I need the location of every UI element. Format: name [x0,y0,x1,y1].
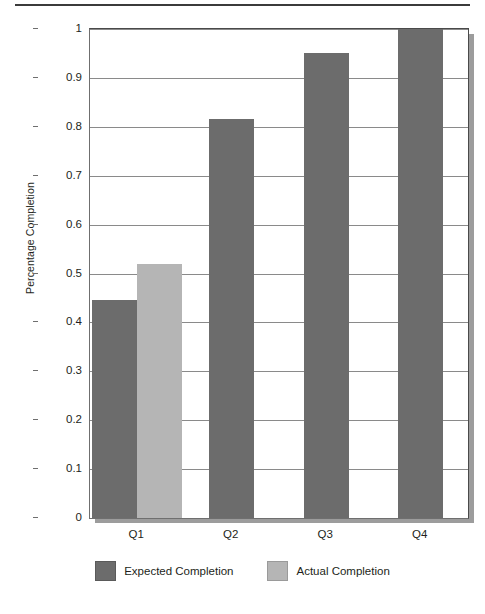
y-tick-label: 0.1 [42,462,82,474]
legend-item-actual: Actual Completion [267,561,389,581]
y-tick-mark [33,77,38,78]
bar-q4-expected [398,29,443,518]
y-tick-mark [33,517,38,518]
chart-legend: Expected CompletionActual Completion [0,561,485,581]
y-tick-label: 0.4 [42,315,82,327]
x-tick-label-q4: Q4 [412,528,427,540]
bar-q1-actual [137,264,182,518]
legend-swatch [95,561,116,581]
legend-item-expected: Expected Completion [95,561,233,581]
y-tick-mark [33,273,38,274]
legend-swatch [267,561,288,581]
y-tick-label: 0.2 [42,413,82,425]
x-tick-label-q2: Q2 [223,528,238,540]
y-tick-label: 0.3 [42,364,82,376]
y-tick-label: 0.5 [42,267,82,279]
y-tick-label: 0.8 [42,120,82,132]
y-tick-mark [33,321,38,322]
y-tick-mark [33,224,38,225]
y-tick-mark [33,419,38,420]
bar-chart-figure: Percentage Completion 00.10.20.30.40.50.… [0,0,485,614]
bar-q3-expected [304,53,349,518]
y-tick-label: 0.7 [42,169,82,181]
bar-q1-expected [92,300,137,518]
plot-shadow-right [469,34,474,523]
y-axis-tick-labels: 00.10.20.30.40.50.60.70.80.91 [38,28,82,517]
y-tick-mark [33,175,38,176]
y-tick-label: 0.6 [42,218,82,230]
y-tick-label: 1 [42,22,82,34]
legend-label: Actual Completion [296,565,389,577]
y-tick-mark [33,370,38,371]
y-tick-mark [33,468,38,469]
x-axis-tick-labels: Q1Q2Q3Q4 [89,528,467,548]
x-tick-label-q1: Q1 [129,528,144,540]
y-tick-mark [33,126,38,127]
x-tick-label-q3: Q3 [318,528,333,540]
y-tick-mark [33,28,38,29]
y-tick-label: 0 [42,511,82,523]
plot-area [89,28,469,519]
bar-q2-expected [209,119,254,519]
legend-label: Expected Completion [124,565,233,577]
y-tick-label: 0.9 [42,71,82,83]
